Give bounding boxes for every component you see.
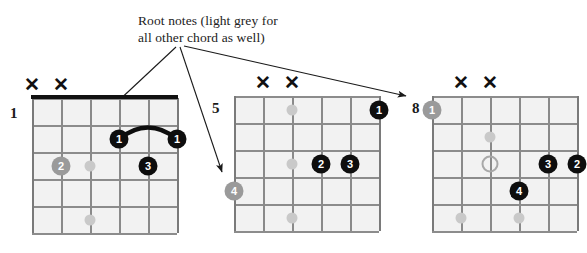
chord-diagram-3-finger-dot-3-label: 3: [545, 158, 551, 170]
chord-diagram-3-fret-line-1: [432, 123, 577, 125]
chord-diagram-3-root-dot-1-label: 1: [429, 104, 435, 116]
chord-diagram-3-root-dot-1: 1: [423, 100, 442, 119]
chord-diagram-3-fret-line-0: [432, 96, 577, 98]
chord-diagram-3-muted-string-2-icon: ✕: [453, 73, 469, 92]
chord-diagram-3-ghost-dot-c: [514, 212, 525, 223]
chord-diagram-3-string-line-2: [461, 96, 463, 231]
chord-diagram-3-ghost-dot-b: [456, 212, 467, 223]
chord-diagram-3-finger-dot-4: 4: [510, 181, 529, 200]
chord-diagram-3-finger-dot-4-label: 4: [516, 185, 522, 197]
chord-diagram-3-fret-line-3: [432, 177, 577, 179]
chord-diagram-3-ghost-dot-a: [485, 131, 496, 142]
chord-diagram-3-finger-dot-2: 2: [568, 154, 587, 173]
chord-diagram-3-fretboard: 1324: [432, 96, 577, 231]
chord-diagram-3-hollow-dot: [482, 155, 499, 172]
chord-diagram-3-string-line-4: [519, 96, 521, 231]
chord-diagram-3-fret-number: 8: [412, 100, 420, 117]
chord-diagram-3-fret-line-5: [432, 231, 577, 233]
chord-diagram-3-muted-string-3-icon: ✕: [482, 73, 498, 92]
chord-diagram-3-fret-line-2: [432, 150, 577, 152]
chord-diagram-3-fret-line-4: [432, 204, 577, 206]
chord-diagram-3-finger-dot-3: 3: [539, 154, 558, 173]
chord-diagram-3-finger-dot-2-label: 2: [574, 158, 580, 170]
